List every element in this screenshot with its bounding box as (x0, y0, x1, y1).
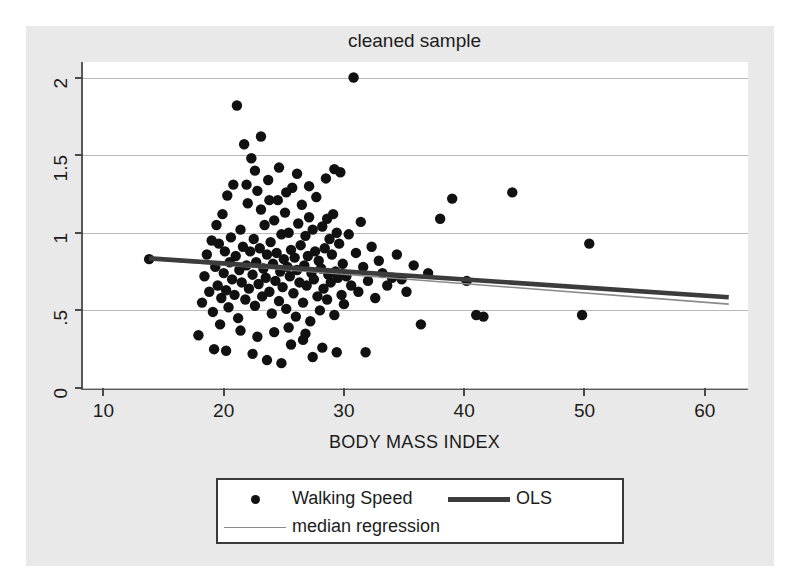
data-point (217, 209, 227, 219)
data-point (247, 269, 257, 279)
data-point (281, 304, 291, 314)
data-point (577, 310, 587, 320)
y-tick-mark (75, 77, 83, 79)
data-point (247, 349, 257, 359)
data-point (363, 276, 373, 286)
data-point (221, 346, 231, 356)
figure-page: cleaned sample 0.511.52102030405060 BODY… (0, 0, 798, 581)
y-tick-label: 1.5 (50, 155, 72, 181)
data-point (223, 302, 233, 312)
data-point (250, 165, 260, 175)
x-tick-label: 50 (574, 400, 595, 422)
data-point (264, 287, 274, 297)
data-point (280, 207, 290, 217)
data-point (233, 313, 243, 323)
y-tick-mark (75, 154, 83, 156)
chart-legend: Walking Speed OLS median regression (216, 478, 624, 544)
data-point (281, 187, 291, 197)
data-point (370, 293, 380, 303)
data-point (204, 287, 214, 297)
data-point (300, 328, 310, 338)
data-point (332, 347, 342, 357)
data-point (235, 224, 245, 234)
data-point (250, 301, 260, 311)
data-point (249, 234, 259, 244)
thin-line-icon (218, 516, 292, 537)
data-point (322, 294, 332, 304)
data-point (288, 288, 298, 298)
x-axis-title: BODY MASS INDEX (81, 432, 748, 453)
data-point (304, 181, 314, 191)
data-point (447, 193, 457, 203)
y-tick-mark (75, 232, 83, 234)
data-point (261, 273, 271, 283)
data-point (366, 242, 376, 252)
data-point (241, 179, 251, 189)
data-point (220, 246, 230, 256)
data-point (219, 268, 229, 278)
data-point (307, 352, 317, 362)
data-point (336, 290, 346, 300)
data-point (269, 215, 279, 225)
data-point (252, 186, 262, 196)
data-point (311, 192, 321, 202)
data-point (283, 322, 293, 332)
data-point (243, 198, 253, 208)
data-point (374, 256, 384, 266)
x-tick-label: 60 (694, 400, 715, 422)
x-tick-label: 20 (213, 400, 234, 422)
legend-label-walking-speed: Walking Speed (292, 488, 412, 509)
y-tick-label: 2 (50, 78, 72, 89)
y-tick-mark (75, 309, 83, 311)
data-point (263, 175, 273, 185)
data-point (478, 311, 488, 321)
data-point (322, 214, 332, 224)
data-point (269, 327, 279, 337)
y-tick-label: 0 (50, 388, 72, 399)
data-point (353, 287, 363, 297)
data-point (262, 355, 272, 365)
data-point (416, 319, 426, 329)
data-point (265, 237, 275, 247)
data-point (351, 248, 361, 258)
plot-canvas: 0.511.52102030405060 (83, 62, 748, 388)
data-point (226, 232, 236, 242)
data-point (310, 246, 320, 256)
data-point (338, 259, 348, 269)
data-point (327, 249, 337, 259)
x-tick-mark (463, 388, 465, 396)
data-point (197, 297, 207, 307)
data-point (209, 344, 219, 354)
legend-item-ols: OLS (442, 488, 552, 509)
data-point (332, 228, 342, 238)
data-point (297, 200, 307, 210)
data-point (246, 153, 256, 163)
scatter-layer (83, 62, 748, 388)
data-point (298, 297, 308, 307)
y-tick-mark (75, 387, 83, 389)
x-tick-mark (583, 388, 585, 396)
data-point (202, 249, 212, 259)
x-tick-mark (223, 388, 225, 396)
data-point (262, 249, 272, 259)
data-point (208, 307, 218, 317)
data-point (283, 228, 293, 238)
data-point (344, 229, 354, 239)
plot-area: 0.511.52102030405060 (81, 62, 748, 390)
data-point (307, 224, 317, 234)
legend-item-walking-speed: Walking Speed (218, 488, 412, 509)
data-point (289, 252, 299, 262)
data-point (211, 220, 221, 230)
data-point (435, 214, 445, 224)
x-tick-label: 30 (333, 400, 354, 422)
y-tick-label: 1 (50, 233, 72, 244)
data-point (392, 249, 402, 259)
data-point (193, 330, 203, 340)
data-point (229, 290, 239, 300)
x-tick-label: 40 (454, 400, 475, 422)
data-point (256, 204, 266, 214)
data-point (244, 283, 254, 293)
data-point (584, 238, 594, 248)
chart-figure: cleaned sample 0.511.52102030405060 BODY… (0, 0, 798, 581)
data-point (256, 131, 266, 141)
